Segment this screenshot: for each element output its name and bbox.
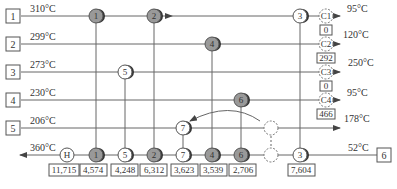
svg-text:95°C: 95°C <box>347 3 368 14</box>
svg-text:C1: C1 <box>321 11 332 21</box>
svg-text:1: 1 <box>11 11 16 22</box>
stream-boxes: 1 2 3 4 5 6 <box>6 9 391 162</box>
svg-text:4: 4 <box>210 150 215 160</box>
svg-text:230°C: 230°C <box>30 87 56 98</box>
svg-text:6: 6 <box>239 95 244 105</box>
svg-text:52°C: 52°C <box>348 142 369 153</box>
svg-text:3: 3 <box>298 150 303 160</box>
svg-text:273°C: 273°C <box>30 59 56 70</box>
svg-text:6,312: 6,312 <box>144 165 164 175</box>
svg-text:6: 6 <box>382 150 387 161</box>
svg-text:2: 2 <box>152 150 157 160</box>
svg-text:2: 2 <box>11 39 16 50</box>
svg-text:2,706: 2,706 <box>233 165 254 175</box>
svg-text:6: 6 <box>239 150 244 160</box>
svg-text:5: 5 <box>123 67 128 77</box>
svg-text:0: 0 <box>324 25 329 35</box>
svg-text:3: 3 <box>298 11 303 21</box>
svg-text:206°C: 206°C <box>30 115 56 126</box>
svg-text:0: 0 <box>324 81 329 91</box>
svg-text:4,248: 4,248 <box>115 165 136 175</box>
svg-text:7,604: 7,604 <box>291 165 312 175</box>
svg-text:3,623: 3,623 <box>174 165 195 175</box>
svg-text:1: 1 <box>94 150 99 160</box>
svg-text:3: 3 <box>11 67 16 78</box>
svg-text:3,539: 3,539 <box>203 165 224 175</box>
svg-text:120°C: 120°C <box>343 29 369 40</box>
svg-text:C2: C2 <box>321 39 332 49</box>
svg-text:5: 5 <box>11 123 16 134</box>
svg-text:H: H <box>64 150 71 160</box>
svg-text:466: 466 <box>319 109 333 119</box>
svg-text:2: 2 <box>152 11 157 21</box>
svg-text:4: 4 <box>11 95 16 106</box>
svg-text:4,574: 4,574 <box>83 165 104 175</box>
svg-text:95°C: 95°C <box>347 87 368 98</box>
svg-text:11,715: 11,715 <box>52 165 77 175</box>
svg-text:178°C: 178°C <box>344 113 370 124</box>
svg-text:C3: C3 <box>321 67 332 77</box>
svg-text:C4: C4 <box>321 95 332 105</box>
svg-text:7: 7 <box>181 150 186 160</box>
svg-text:7: 7 <box>181 123 186 133</box>
svg-text:310°C: 310°C <box>30 3 56 14</box>
svg-text:292: 292 <box>319 53 333 63</box>
svg-text:250°C: 250°C <box>348 57 374 68</box>
svg-text:1: 1 <box>94 11 99 21</box>
svg-text:5: 5 <box>123 150 128 160</box>
heat-exchanger-network: 1 2 3 4 5 6 310°C 299°C 273°C 230°C 206°… <box>0 0 397 189</box>
svg-text:4: 4 <box>210 39 215 49</box>
svg-text:299°C: 299°C <box>30 31 56 42</box>
svg-text:360°C: 360°C <box>30 142 56 153</box>
